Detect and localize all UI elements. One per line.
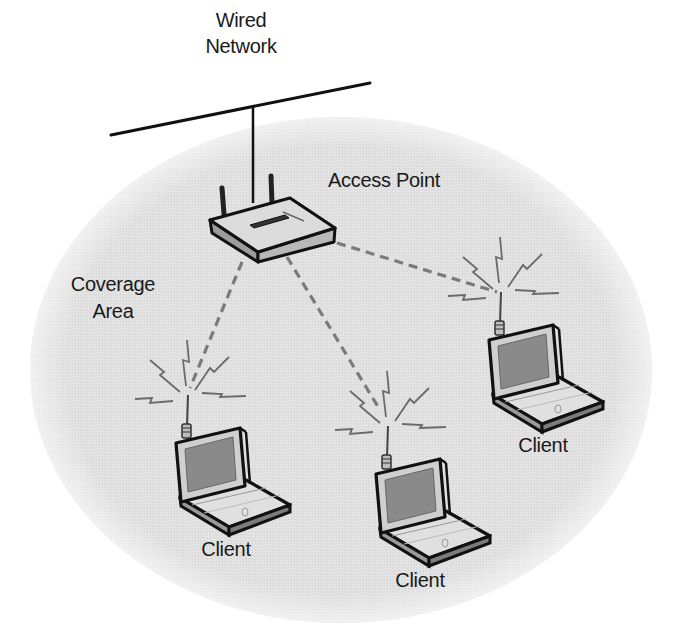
wired-network-label-line1: Wired [216, 9, 267, 31]
coverage-area-label-line1: Coverage [71, 273, 155, 295]
client-label-left: Client [201, 538, 251, 560]
client-label-right: Client [518, 434, 568, 456]
coverage-area-label-line2: Area [92, 300, 134, 322]
wired-network-label-line2: Network [205, 35, 278, 57]
access-point-label: Access Point [328, 169, 441, 191]
wireless-network-diagram: Wired Network Access Point Coverage Area… [0, 0, 685, 640]
client-label-center: Client [395, 569, 445, 591]
